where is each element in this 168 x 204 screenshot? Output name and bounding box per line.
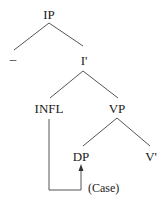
node-infl: INFL (35, 101, 64, 116)
node-dp: DP (73, 149, 90, 164)
node-spec: – (9, 51, 17, 66)
node-v-bar: V' (145, 149, 157, 164)
syntax-tree-diagram: IP – I' INFL VP DP V' (Case) (0, 0, 168, 204)
case-label: (Case) (88, 181, 119, 195)
node-i-bar: I' (81, 53, 88, 68)
arrowhead-icon (79, 164, 84, 171)
edge-ip-spec (14, 23, 49, 50)
edge-vp-dp (83, 118, 117, 146)
edge-ibar-vp (83, 71, 118, 98)
edge-vp-vbar (117, 118, 150, 146)
node-vp: VP (109, 101, 126, 116)
edge-ip-ibar (49, 23, 83, 46)
edge-ibar-infl (50, 71, 83, 98)
node-ip: IP (43, 7, 55, 22)
